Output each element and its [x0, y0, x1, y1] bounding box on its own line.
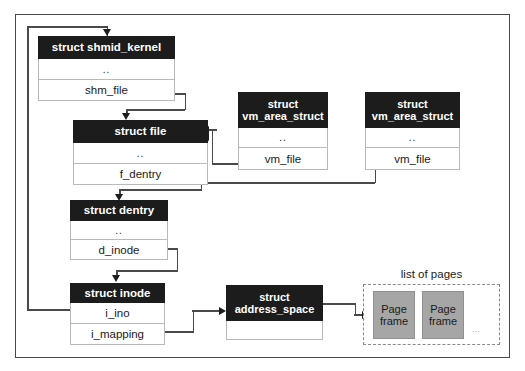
box-struct-inode-row-0: i_ino: [70, 303, 165, 324]
box-struct-dentry[interactable]: struct dentry .. d_inode: [70, 200, 168, 260]
box-struct-inode-title: struct inode: [70, 283, 165, 303]
connector-dinode-to-inode-seg3: [116, 270, 177, 272]
connector-vmaleft-to-file-seg2: [212, 129, 214, 164]
box-address-space-title: struct address_space: [226, 285, 323, 321]
box-address-space-title-line1: struct: [259, 291, 290, 303]
page-frame-0-line1: Page: [380, 303, 408, 315]
arrowhead-into-struct-file: [122, 113, 130, 120]
box-vm-area-struct-left-title: struct vm_area_struct: [238, 92, 328, 128]
box-struct-file[interactable]: struct file .. f_dentry: [73, 120, 208, 185]
connector-inode-to-shmid-seg1: [27, 309, 72, 311]
box-shmid-kernel-title-line1: struct shmid_kernel: [52, 41, 161, 54]
box-address-space-row-0: [226, 321, 323, 340]
page-list-label: list of pages: [363, 268, 500, 280]
connector-imapping-to-addrspace-seg2: [193, 310, 195, 332]
connector-imapping-to-addrspace-seg3: [192, 310, 220, 312]
page-frame-1-line1: Page: [429, 303, 457, 315]
box-vma-right-row-1: vm_file: [365, 148, 460, 170]
box-vma-right-title-line1: struct: [397, 98, 428, 110]
box-vma-left-row-0: ..: [238, 128, 328, 148]
box-vma-right-title-line2: vm_area_struct: [372, 110, 453, 122]
box-vma-left-title-line2: vm_area_struct: [242, 110, 323, 122]
box-struct-file-title-line1: struct file: [115, 125, 167, 138]
box-struct-inode-title-line1: struct inode: [85, 287, 151, 300]
box-struct-inode-row-1: i_mapping: [70, 324, 165, 345]
page-list-container: Page frame Page frame ...: [363, 284, 500, 345]
box-struct-dentry-row-1: d_inode: [70, 240, 168, 260]
box-struct-dentry-title: struct dentry: [70, 200, 168, 221]
box-struct-file-row-0: ..: [73, 143, 208, 164]
page-frame-1-line2: frame: [429, 315, 457, 327]
arrowhead-into-struct-inode: [112, 275, 120, 282]
page-frame-0-line2: frame: [380, 315, 408, 327]
box-shmid-kernel-row-1: shm_file: [38, 80, 175, 101]
connector-vmaright-to-file-seg2: [195, 182, 375, 184]
box-struct-dentry-row-0: ..: [70, 221, 168, 240]
box-vma-left-title-line1: struct: [268, 98, 299, 110]
diagram-canvas: struct shmid_kernel .. shm_file struct f…: [0, 0, 525, 371]
page-list-ellipsis: ...: [472, 325, 480, 334]
box-struct-file-row-1: f_dentry: [73, 164, 208, 185]
connector-inode-to-shmid-seg3: [27, 26, 108, 28]
box-shmid-kernel-title: struct shmid_kernel: [38, 36, 175, 59]
box-struct-inode[interactable]: struct inode i_ino i_mapping: [70, 283, 165, 345]
box-vm-area-struct-right[interactable]: struct vm_area_struct .. vm_file: [365, 92, 460, 170]
connector-shmfile-to-file-seg2: [185, 93, 187, 110]
box-vma-left-row-1: vm_file: [238, 148, 328, 170]
connector-addrspace-to-pagelist-seg1: [323, 303, 356, 305]
box-struct-file-title: struct file: [73, 120, 208, 143]
page-frame-0[interactable]: Page frame: [373, 291, 415, 339]
box-shmid-kernel-row-0: ..: [38, 59, 175, 80]
arrowhead-into-address-space: [219, 307, 226, 315]
box-struct-dentry-title-line1: struct dentry: [84, 204, 154, 217]
connector-vmaleft-to-file-seg1: [212, 163, 240, 165]
connector-imapping-to-addrspace-seg1: [160, 331, 194, 333]
box-address-space-title-line2: address_space: [235, 303, 315, 315]
box-shmid-kernel[interactable]: struct shmid_kernel .. shm_file: [38, 36, 175, 101]
connector-shmfile-to-file-seg3: [126, 109, 185, 111]
connector-dinode-to-inode-seg2: [177, 248, 179, 272]
box-vm-area-struct-right-title: struct vm_area_struct: [365, 92, 460, 128]
connector-fdentry-to-dentry-seg3: [119, 189, 201, 191]
box-address-space[interactable]: struct address_space: [226, 285, 323, 340]
box-vma-right-row-0: ..: [365, 128, 460, 148]
box-vm-area-struct-left[interactable]: struct vm_area_struct .. vm_file: [238, 92, 328, 170]
page-frame-1[interactable]: Page frame: [422, 291, 464, 339]
arrowhead-into-shmid-kernel: [103, 29, 111, 36]
connector-inode-to-shmid-seg2: [27, 26, 29, 310]
